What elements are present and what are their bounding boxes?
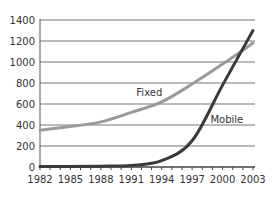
y-axis-ticks: 0200400600800100012001400 bbox=[10, 15, 35, 173]
y-tick-label: 200 bbox=[16, 141, 35, 152]
y-tick-label: 600 bbox=[16, 99, 35, 110]
series-label-fixed: Fixed bbox=[136, 87, 162, 98]
x-tick-label: 2003 bbox=[240, 174, 265, 185]
x-tick-label: 1994 bbox=[149, 174, 174, 185]
x-tick-label: 1982 bbox=[27, 174, 52, 185]
x-tick-label: 1997 bbox=[179, 174, 204, 185]
y-tick-label: 800 bbox=[16, 78, 35, 89]
y-tick-label: 0 bbox=[29, 162, 35, 173]
y-tick-label: 1400 bbox=[10, 15, 35, 26]
y-tick-label: 1000 bbox=[10, 57, 35, 68]
y-tick-label: 400 bbox=[16, 120, 35, 131]
x-tick-label: 1991 bbox=[119, 174, 144, 185]
x-tick-label: 2000 bbox=[210, 174, 235, 185]
x-tick-label: 1985 bbox=[58, 174, 83, 185]
series-label-mobile: Mobile bbox=[210, 114, 243, 125]
y-tick-label: 1200 bbox=[10, 36, 35, 47]
line-chart: 0200400600800100012001400 19821985198819… bbox=[0, 0, 272, 197]
x-axis-ticks: 19821985198819911994199720002003 bbox=[27, 167, 265, 185]
x-tick-label: 1988 bbox=[88, 174, 113, 185]
